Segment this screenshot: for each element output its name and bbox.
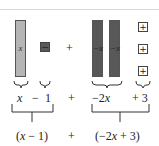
term-plus-3: + 3	[132, 91, 148, 105]
term-x-var: x	[17, 91, 22, 105]
term-neg-2x-var: x	[105, 91, 110, 105]
group2-rest: + 3)	[117, 129, 140, 143]
brace-pos-one	[136, 81, 150, 88]
group1-rest: − 1)	[25, 129, 48, 143]
term-neg-2x: −2x	[92, 91, 110, 105]
brace-neg-x	[92, 81, 122, 88]
brace-neg-one	[40, 81, 50, 88]
row1-plus: +	[68, 91, 75, 105]
term-one: 1	[45, 91, 51, 105]
brace-x	[14, 81, 28, 88]
group2-open: (−2	[95, 129, 112, 143]
group-neg-2x-plus-3: (−2x + 3)	[95, 129, 140, 143]
bracket-right	[92, 104, 149, 122]
brace-bracket-lines	[0, 0, 159, 146]
term-neg-2x-coef: −2	[92, 91, 105, 105]
group-x-minus-1: (x − 1)	[16, 129, 48, 143]
term-minus: −	[32, 91, 39, 105]
term-x: x	[17, 91, 22, 105]
bracket-left	[12, 104, 53, 122]
row2-plus: +	[68, 129, 75, 143]
